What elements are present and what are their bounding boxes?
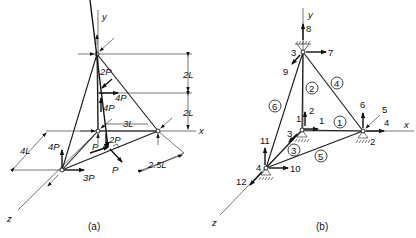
truss-diagrams: y x z 2P 4P 4P: [0, 0, 416, 238]
z-axis-label-b: z: [211, 217, 217, 228]
svg-text:4: 4: [334, 78, 339, 89]
dof-1: 1: [319, 115, 324, 126]
node-label-2: 2: [370, 136, 375, 147]
svg-text:2: 2: [309, 83, 314, 94]
dof-12: 12: [236, 176, 247, 187]
node-label-1: 1: [296, 113, 301, 124]
node-x: [156, 129, 160, 133]
caption-b: (b): [316, 221, 328, 232]
node-4: [264, 166, 268, 170]
node-1: [300, 128, 304, 132]
dof-11: 11: [260, 135, 270, 146]
dof-6: 6: [360, 99, 365, 110]
load-4p-horizontal: 4P: [115, 92, 127, 103]
load-3p-z-node: 3P: [83, 172, 95, 183]
load-4p-z-node: 4P: [48, 141, 60, 152]
figure-a: y x z 2P 4P 4P: [6, 0, 205, 232]
member-label-2: 2: [306, 82, 318, 94]
y-axis-label-b: y: [307, 9, 314, 20]
load-2p-apex: 2P: [99, 66, 112, 77]
load-p-perpendicular: P: [112, 164, 119, 175]
member-label-1: 1: [334, 116, 346, 128]
member-label-6: 6: [269, 100, 281, 112]
dim-2l-bottom: 2L: [182, 107, 194, 118]
dim-3l: 3L: [123, 118, 134, 129]
member-label-4: 4: [331, 77, 343, 89]
dof-10: 10: [290, 163, 301, 174]
dof-7: 7: [328, 47, 333, 58]
member-5: [266, 131, 363, 168]
node-label-4: 4: [256, 162, 261, 173]
dim-2-5l: 2.5L: [147, 159, 167, 170]
z-axis-label: z: [6, 213, 12, 224]
load-p-axial: P: [92, 141, 99, 152]
load-2p-origin: 2P: [108, 134, 121, 145]
node-origin: [96, 129, 100, 133]
dof-8: 8: [306, 23, 311, 34]
y-axis-label: y: [101, 11, 108, 22]
dof-2: 2: [309, 105, 314, 116]
caption-a: (a): [88, 221, 100, 232]
node-z: [60, 168, 64, 172]
dof-4: 4: [384, 117, 389, 128]
node-2: [361, 129, 365, 133]
x-axis-label: x: [198, 125, 205, 136]
svg-text:1: 1: [337, 117, 342, 128]
dim-4l: 4L: [20, 145, 31, 156]
node-label-3: 3: [291, 47, 296, 58]
dof-9: 9: [283, 66, 288, 77]
dof-3: 3: [287, 128, 292, 139]
dim-2l-top: 2L: [182, 69, 194, 80]
member-label-3: 3: [288, 144, 300, 156]
dof-5: 5: [382, 104, 387, 115]
x-axis-label-b: x: [403, 119, 410, 130]
load-4p-vertical: 4P: [103, 102, 115, 113]
svg-text:6: 6: [272, 101, 277, 112]
svg-text:5: 5: [318, 151, 323, 162]
figure-b: y x z 1 2 3 4 5 6: [211, 8, 414, 232]
member-label-5: 5: [315, 150, 327, 162]
node-3: [301, 50, 305, 54]
svg-text:3: 3: [291, 145, 296, 156]
